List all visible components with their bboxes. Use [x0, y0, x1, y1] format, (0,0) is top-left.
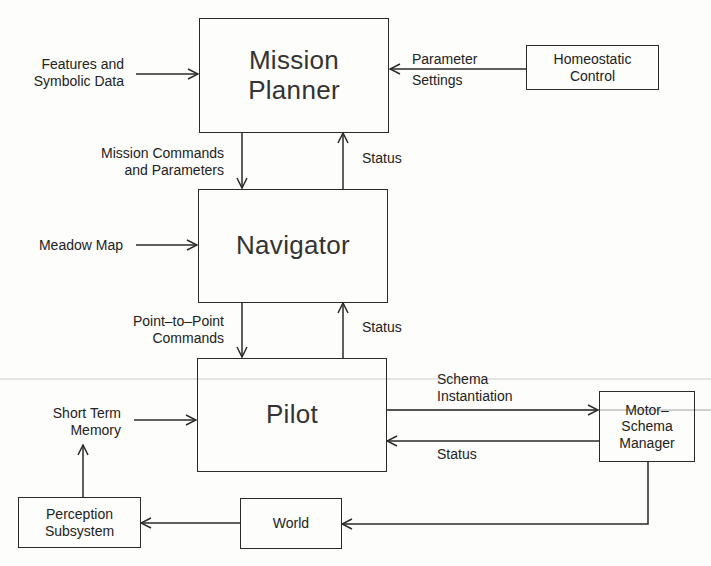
schema-instantiation-label-2: Instantiation [437, 388, 513, 405]
point-to-point-label-1: Point–to–Point [100, 313, 224, 330]
mission-planner-label-1: Mission [248, 46, 340, 76]
short-term-memory-label: Short Term Memory [20, 405, 121, 439]
stm-label-1: Short Term [20, 405, 121, 422]
features-label-1: Features and [20, 56, 124, 73]
stm-label-2: Memory [20, 422, 121, 439]
schema-instantiation-label: Schema Instantiation [437, 371, 513, 405]
motor-schema-label-3: Manager [619, 435, 674, 451]
motor-schema-manager-node: Motor– Schema Manager [599, 391, 695, 462]
motor-schema-label-1: Motor– [619, 402, 674, 418]
parameter-settings-label-2: Settings [412, 72, 477, 89]
point-to-point-label: Point–to–Point Commands [100, 313, 224, 347]
mission-planner-label-2: Planner [248, 76, 340, 106]
world-node: World [240, 498, 342, 549]
status-navigator-label: Status [362, 319, 402, 336]
features-label: Features and Symbolic Data [20, 56, 124, 90]
meadow-map-label: Meadow Map [20, 237, 123, 254]
status-pilot-label: Status [437, 446, 477, 463]
perception-label-1: Perception [45, 506, 114, 522]
perception-label-2: Subsystem [45, 523, 114, 539]
navigator-node: Navigator [198, 189, 388, 303]
homeostatic-control-node: Homeostatic Control [526, 45, 659, 90]
point-to-point-label-2: Commands [100, 330, 224, 347]
arrow-motorschema-to-world [342, 461, 648, 524]
schema-instantiation-label-1: Schema [437, 371, 513, 388]
homeostatic-label-2: Control [554, 68, 632, 84]
navigator-label: Navigator [236, 231, 350, 261]
features-label-2: Symbolic Data [20, 73, 124, 90]
mission-commands-label-2: and Parameters [90, 162, 224, 179]
homeostatic-label-1: Homeostatic [554, 51, 632, 67]
mission-commands-label-1: Mission Commands [90, 145, 224, 162]
parameter-settings-label: Parameter Settings [412, 51, 477, 89]
mission-commands-label: Mission Commands and Parameters [90, 145, 224, 179]
status-planner-label: Status [362, 150, 402, 167]
mission-planner-node: Mission Planner [199, 18, 389, 133]
pilot-label: Pilot [266, 400, 318, 430]
perception-subsystem-node: Perception Subsystem [18, 497, 141, 548]
world-label: World [273, 515, 309, 531]
pilot-node: Pilot [197, 358, 387, 472]
parameter-settings-label-1: Parameter [412, 51, 477, 68]
motor-schema-label-2: Schema [619, 418, 674, 434]
